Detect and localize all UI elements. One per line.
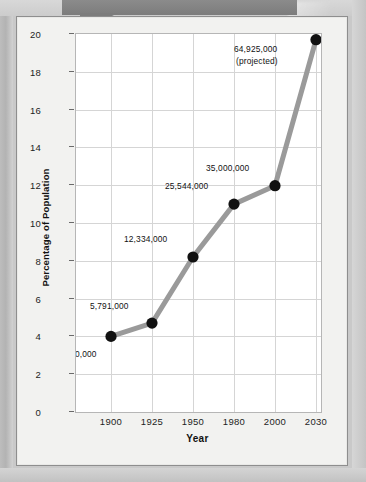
y-tick-10: 10 — [1, 218, 41, 229]
y-tick-mark-0 — [69, 411, 74, 412]
data-label-1900: 3,120,000 — [75, 349, 97, 360]
data-point-2030 — [310, 34, 321, 45]
y-tick-0: 0 — [1, 407, 41, 418]
data-label-1980: 25,544,000 — [165, 181, 208, 192]
plot-area: 3,120,000 5,791,000 12,334,000 25,544,00… — [75, 33, 322, 413]
y-tick-mark-14 — [69, 146, 74, 147]
data-point-1925 — [146, 318, 157, 329]
y-tick-8: 8 — [1, 255, 41, 266]
y-tick-18: 18 — [1, 66, 41, 77]
figure-page: 20 18 16 14 12 10 8 6 4 2 0 Percentage o… — [16, 16, 348, 466]
data-point-1980 — [228, 199, 239, 210]
page-bottom-edge — [0, 468, 366, 482]
x-tick-2000: 2000 — [253, 416, 297, 427]
data-label-1925: 5,791,000 — [90, 301, 129, 312]
data-point-1950 — [187, 251, 198, 262]
x-axis-title: Year — [75, 433, 320, 444]
data-label-1950: 12,334,000 — [124, 234, 167, 245]
x-tick-1980: 1980 — [212, 416, 256, 427]
y-tick-mark-6 — [69, 298, 74, 299]
y-tick-2: 2 — [1, 369, 41, 380]
y-tick-mark-2 — [69, 373, 74, 374]
y-tick-14: 14 — [1, 142, 41, 153]
data-label-2000: 35,000,000 — [206, 163, 249, 174]
y-tick-12: 12 — [1, 180, 41, 191]
data-label-2030-value: 64,925,000 — [234, 44, 277, 55]
x-tick-2030: 2030 — [294, 416, 338, 427]
data-point-1900 — [105, 331, 116, 342]
y-tick-mark-12 — [69, 184, 74, 185]
y-tick-6: 6 — [1, 293, 41, 304]
y-tick-mark-16 — [69, 109, 74, 110]
data-label-2030-note: (projected) — [236, 56, 278, 67]
y-tick-mark-10 — [69, 222, 74, 223]
data-series-line — [76, 34, 321, 412]
y-axis-title: Percentage of Population — [40, 118, 51, 338]
y-tick-mark-4 — [69, 335, 74, 336]
y-tick-4: 4 — [1, 331, 41, 342]
x-tick-1925: 1925 — [130, 416, 174, 427]
data-point-2000 — [269, 180, 280, 191]
y-tick-mark-20 — [69, 33, 74, 34]
x-tick-1950: 1950 — [171, 416, 215, 427]
y-tick-16: 16 — [1, 104, 41, 115]
y-tick-mark-18 — [69, 71, 74, 72]
page-right-edge — [352, 0, 366, 482]
y-tick-mark-8 — [69, 260, 74, 261]
x-tick-1900: 1900 — [89, 416, 133, 427]
chart-container: 20 18 16 14 12 10 8 6 4 2 0 Percentage o… — [17, 17, 347, 465]
y-tick-20: 20 — [1, 29, 41, 40]
